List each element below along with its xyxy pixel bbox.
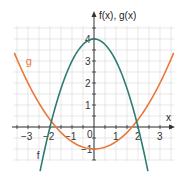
- x-tick-label: 0: [87, 129, 93, 140]
- function-graph: −3−2−10123−11234 f(x), g(x) x g f: [0, 0, 187, 177]
- x-axis-arrow-icon: [169, 125, 175, 130]
- y-axis-arrow-icon: [92, 11, 97, 17]
- y-tick-label: 2: [85, 78, 91, 89]
- y-axis-title: f(x), g(x): [99, 10, 136, 21]
- x-tick-label: −3: [21, 131, 33, 142]
- g-curve-label: g: [26, 55, 32, 67]
- y-tick-label: 1: [85, 100, 91, 111]
- x-axis-title: x: [166, 112, 171, 123]
- f-curve-label: f: [37, 150, 40, 161]
- x-tick-label: 3: [157, 131, 163, 142]
- y-tick-label: 3: [85, 56, 91, 67]
